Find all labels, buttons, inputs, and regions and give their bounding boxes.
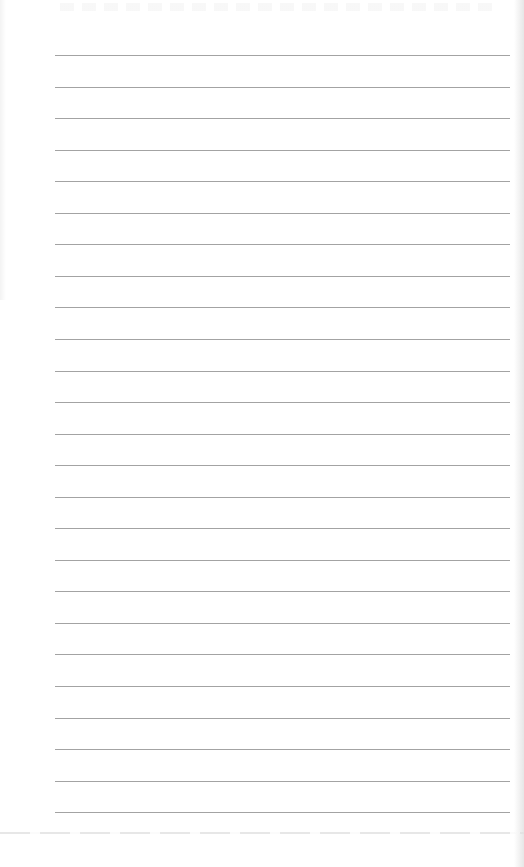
ruled-line (55, 781, 510, 782)
ruled-line (55, 434, 510, 435)
ruled-line (55, 497, 510, 498)
ruled-line (55, 465, 510, 466)
ruled-lines (0, 0, 524, 867)
ruled-line (55, 560, 510, 561)
ruled-line (55, 718, 510, 719)
ruled-line (55, 87, 510, 88)
ruled-line (55, 150, 510, 151)
ruled-line (55, 181, 510, 182)
ruled-line (55, 812, 510, 813)
ruled-line (55, 654, 510, 655)
ruled-line (55, 118, 510, 119)
ruled-line (55, 339, 510, 340)
ruled-line (55, 528, 510, 529)
lined-paper-page (0, 0, 524, 867)
ruled-line (55, 402, 510, 403)
ruled-line (55, 591, 510, 592)
ruled-line (55, 276, 510, 277)
ruled-line (55, 623, 510, 624)
ruled-line (55, 244, 510, 245)
ruled-line (55, 749, 510, 750)
ruled-line (55, 686, 510, 687)
ruled-line (55, 55, 510, 56)
ruled-line (55, 371, 510, 372)
ruled-line (55, 307, 510, 308)
ruled-line (55, 213, 510, 214)
